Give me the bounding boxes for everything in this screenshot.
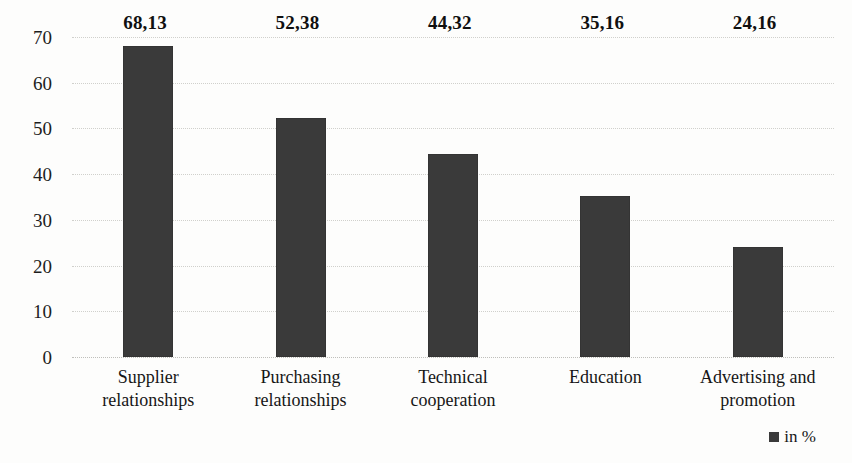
bar[interactable]: 35,16: [580, 196, 630, 357]
x-axis-category-label: Technicalcooperation: [377, 366, 529, 412]
x-axis-category-line: relationships: [72, 389, 224, 412]
x-axis-category-label: Advertising andpromotion: [682, 366, 834, 412]
y-axis-tick-label: 30: [33, 210, 52, 229]
gridline: [72, 357, 834, 358]
bar-chart: 010203040506070 68,1352,3844,3235,1624,1…: [0, 0, 852, 463]
y-axis-tick-label: 50: [33, 119, 52, 138]
x-axis-category-line: promotion: [682, 389, 834, 412]
x-axis-category-line: Advertising and: [682, 366, 834, 389]
bar[interactable]: 68,13: [123, 46, 173, 357]
x-axis-category-line: Supplier: [72, 366, 224, 389]
y-axis-tick-label: 10: [33, 302, 52, 321]
x-axis-category-label: Supplierrelationships: [72, 366, 224, 412]
x-axis-category-line: Technical: [377, 366, 529, 389]
chart-legend: in %: [769, 427, 816, 447]
x-axis-category-line: cooperation: [377, 389, 529, 412]
bar-value-label: 44,32: [428, 13, 472, 32]
x-axis-category-label: Purchasingrelationships: [224, 366, 376, 412]
bar[interactable]: 52,38: [276, 118, 326, 357]
bar-group[interactable]: 68,13: [123, 37, 173, 357]
bar-group[interactable]: 52,38: [276, 37, 326, 357]
x-axis-category-line: relationships: [224, 389, 376, 412]
bar-group[interactable]: 44,32: [428, 37, 478, 357]
bar-value-label: 68,13: [123, 13, 167, 32]
y-axis: 010203040506070: [0, 37, 62, 357]
y-axis-tick-label: 0: [43, 348, 53, 367]
plot-area: 68,1352,3844,3235,1624,16: [72, 37, 834, 357]
x-axis-category-line: Education: [529, 366, 681, 389]
bar-value-label: 35,16: [580, 13, 624, 32]
x-axis-category-label: Education: [529, 366, 681, 389]
bar[interactable]: 24,16: [733, 247, 783, 357]
y-axis-tick-label: 40: [33, 165, 52, 184]
bar-value-label: 52,38: [276, 13, 320, 32]
x-axis-category-line: Purchasing: [224, 366, 376, 389]
y-axis-tick-label: 70: [33, 28, 52, 47]
bar[interactable]: 44,32: [428, 154, 478, 357]
legend-swatch-icon: [769, 432, 779, 442]
y-axis-tick-label: 20: [33, 256, 52, 275]
legend-label: in %: [784, 427, 816, 447]
bar-value-label: 24,16: [733, 13, 777, 32]
bar-group[interactable]: 24,16: [733, 37, 783, 357]
bar-group[interactable]: 35,16: [580, 37, 630, 357]
x-axis: SupplierrelationshipsPurchasingrelations…: [72, 366, 834, 424]
y-axis-tick-label: 60: [33, 73, 52, 92]
